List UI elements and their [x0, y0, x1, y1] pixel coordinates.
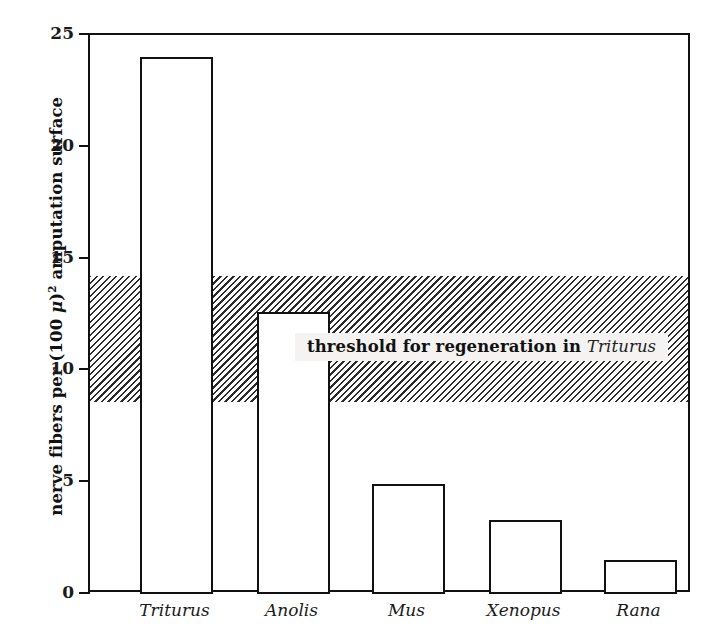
- y-axis-title-exponent: 2: [46, 285, 58, 292]
- y-tick-label-0: 0: [46, 584, 74, 601]
- threshold-annotation-text: threshold for regeneration in: [307, 337, 581, 356]
- x-tick-label-rana: Rana: [616, 600, 660, 620]
- y-axis-title-post: ): [47, 293, 66, 301]
- plot-area: [88, 33, 690, 592]
- x-tick-label-triturus: Triturus: [139, 600, 209, 620]
- bar-mus: [372, 484, 445, 594]
- y-tick-label-15: 15: [46, 248, 74, 265]
- bar-triturus: [140, 57, 213, 594]
- y-tick-mark-0: [79, 592, 90, 594]
- bar-xenopus: [489, 520, 562, 594]
- y-tick-label-10: 10: [46, 360, 74, 377]
- mu-symbol: μ: [47, 301, 66, 313]
- threshold-annotation: threshold for regeneration in Triturus: [295, 333, 668, 361]
- x-tick-label-xenopus: Xenopus: [487, 600, 561, 620]
- bar-chart-figure: nerve fibers per (100 μ)2 amputation sur…: [0, 0, 710, 642]
- y-axis-title: nerve fibers per (100 μ)2 amputation sur…: [46, 36, 67, 576]
- bar-rana: [604, 560, 677, 594]
- x-tick-label-anolis: Anolis: [265, 600, 318, 620]
- x-tick-label-mus: Mus: [388, 600, 425, 620]
- y-tick-label-25: 25: [46, 25, 74, 42]
- y-tick-label-5: 5: [46, 472, 74, 489]
- y-tick-label-20: 20: [46, 136, 74, 153]
- threshold-annotation-species: Triturus: [587, 337, 656, 356]
